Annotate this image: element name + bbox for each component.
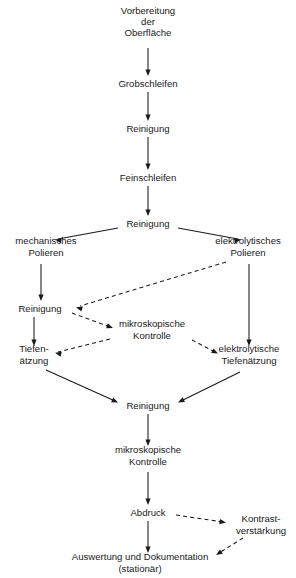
arrowhead-feinschleifen-to-reinigung-2 (145, 210, 150, 216)
node-vorbereitung-line-1: der (141, 16, 156, 27)
node-tiefenaetzung-line-1: ätzung (20, 354, 49, 365)
node-reinigung-4: Reinigung (126, 400, 169, 411)
node-elektrolytische-tiefenaetzung-line-0: elektrolytische (219, 343, 280, 354)
node-mikroskopische-kontrolle-2-line-1: Kontrolle (129, 455, 167, 466)
edge-reinigung-3-to-mikroskopische-kontrolle-1 (72, 313, 110, 327)
node-reinigung-2: Reinigung (126, 218, 169, 229)
node-elektrolytisches-polieren: elektrolytischesPolieren (215, 235, 281, 257)
node-feinschleifen-line-0: Feinschleifen (120, 172, 177, 183)
node-grobschleifen-line-0: Grobschleifen (118, 78, 177, 89)
edge-elektrolytisches-polieren-to-reinigung-3 (80, 262, 226, 306)
node-reinigung-1-line-0: Reinigung (126, 123, 169, 134)
node-tiefenaetzung-line-0: Tiefen- (19, 343, 49, 354)
node-reinigung-3: Reinigung (18, 303, 61, 314)
edge-mikroskopische-kontrolle-1-to-elektrolytische-tiefenaetzung (192, 340, 215, 352)
node-vorbereitung: VorbereitungderOberfläche (121, 4, 175, 38)
edge-elektrolytische-tiefenaetzung-to-reinigung-4 (181, 372, 240, 401)
edge-mikroskopische-kontrolle-1-to-tiefenaetzung (58, 339, 110, 352)
node-auswertung: Auswertung und Dokumentation(stationär) (72, 551, 209, 573)
arrowhead-tiefenaetzung-to-reinigung-4 (111, 397, 119, 404)
node-kontrastverstaerkung: Kontrast-verstärkung (236, 513, 286, 535)
node-elektrolytisches-polieren-line-1: Polieren (230, 246, 265, 257)
node-mikroskopische-kontrolle-2-line-0: mikroskopische (115, 444, 181, 455)
node-elektrolytische-tiefenaetzung: elektrolytischeTiefenätzung (219, 343, 280, 365)
arrowhead-reinigung-3-to-mikroskopische-kontrolle-1 (106, 323, 114, 330)
arrowhead-grobschleifen-to-reinigung-1 (145, 115, 150, 121)
node-reinigung-3-line-0: Reinigung (18, 303, 61, 314)
arrowhead-kontrastverstaerkung-to-auswertung (215, 549, 223, 557)
node-auswertung-line-1: (stationär) (118, 562, 161, 573)
arrowhead-mikroskopische-kontrolle-2-to-abdruck (145, 499, 150, 505)
node-mikroskopische-kontrolle-1-line-0: mikroskopische (119, 318, 185, 329)
node-abdruck: Abdruck (130, 507, 165, 518)
edge-kontrastverstaerkung-to-auswertung (219, 538, 243, 553)
node-elektrolytische-tiefenaetzung-line-1: Tiefenätzung (221, 354, 276, 365)
node-mechanisches-polieren: mechanischesPolieren (15, 235, 77, 257)
node-kontrastverstaerkung-line-1: verstärkung (236, 524, 286, 535)
node-tiefenaetzung: Tiefen-ätzung (19, 343, 49, 365)
node-abdruck-line-0: Abdruck (130, 507, 165, 518)
arrowhead-elektrolytische-tiefenaetzung-to-reinigung-4 (177, 397, 185, 404)
arrowhead-vorbereitung-to-grobschleifen (145, 70, 150, 76)
node-kontrastverstaerkung-line-0: Kontrast- (242, 513, 281, 524)
flowchart-canvas: VorbereitungderOberflächeGrobschleifenRe… (0, 0, 296, 578)
node-vorbereitung-line-0: Vorbereitung (121, 4, 175, 15)
arrowheads-layer (31, 70, 251, 558)
node-mechanisches-polieren-line-1: Polieren (28, 246, 63, 257)
arrowhead-reinigung-1-to-feinschleifen (145, 164, 150, 170)
node-mikroskopische-kontrolle-1-line-1: Kontrolle (133, 329, 171, 340)
arrowhead-abdruck-to-kontrastverstaerkung (219, 519, 226, 525)
node-feinschleifen: Feinschleifen (120, 172, 177, 183)
node-grobschleifen: Grobschleifen (118, 78, 177, 89)
node-mikroskopische-kontrolle-2: mikroskopischeKontrolle (115, 444, 181, 466)
nodes-layer: VorbereitungderOberflächeGrobschleifenRe… (15, 4, 286, 573)
node-auswertung-line-0: Auswertung und Dokumentation (72, 551, 209, 562)
flowchart-diagram: VorbereitungderOberflächeGrobschleifenRe… (0, 0, 296, 578)
node-mechanisches-polieren-line-0: mechanisches (15, 235, 77, 246)
node-vorbereitung-line-2: Oberfläche (125, 27, 172, 38)
node-reinigung-1: Reinigung (126, 123, 169, 134)
node-reinigung-2-line-0: Reinigung (126, 218, 169, 229)
node-reinigung-4-line-0: Reinigung (126, 400, 169, 411)
arrowhead-elektrolytisches-polieren-to-reinigung-3 (75, 305, 83, 312)
edge-abdruck-to-kontrastverstaerkung (176, 515, 223, 522)
node-mikroskopische-kontrolle-1: mikroskopischeKontrolle (119, 318, 185, 340)
arrowhead-mechanisches-polieren-to-reinigung-3 (38, 295, 43, 301)
node-elektrolytisches-polieren-line-0: elektrolytisches (215, 235, 281, 246)
edge-tiefenaetzung-to-reinigung-4 (46, 370, 115, 401)
